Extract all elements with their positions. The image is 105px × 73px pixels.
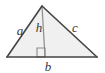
label-side-c: c <box>72 20 78 35</box>
geometry-figure: a h c b <box>0 0 105 73</box>
label-side-a: a <box>17 23 24 38</box>
label-base-b: b <box>45 59 52 73</box>
label-altitude-h: h <box>36 20 43 35</box>
triangle-diagram-svg: a h c b <box>0 0 105 73</box>
